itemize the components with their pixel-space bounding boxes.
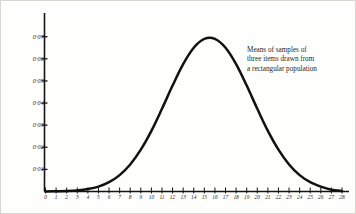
y-tick-label: 0·07 [14,34,44,40]
annotation-text: Means of samples of three items drawn fr… [247,46,355,74]
y-tick-label: 0·05 [14,78,44,84]
y-tick-label: 0·01 [14,166,44,172]
annotation-line-2: three items drawn from [247,55,355,64]
annotation-line-3: a rectangular population [247,65,355,74]
annotation-line-1: Means of samples of [247,46,355,55]
y-tick-label: 0·02 [14,144,44,150]
y-tick-label: 0·04 [14,100,44,106]
curve-svg [1,1,356,214]
y-tick-label: 0·06 [14,56,44,62]
y-tick-label: 0·03 [14,122,44,128]
plot-area: 0·010·020·030·040·050·060·07 01234567891… [1,1,356,214]
x-tick-label: 28 [335,194,349,200]
figure-frame: 0·010·020·030·040·050·060·07 01234567891… [0,0,356,214]
